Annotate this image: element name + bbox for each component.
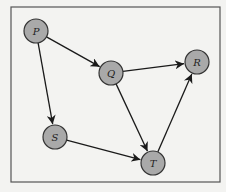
node-label: S [52, 132, 59, 143]
node-label: R [192, 57, 201, 68]
edge-p-to-s [38, 43, 53, 124]
edge-p-to-q [46, 37, 99, 67]
node-t: T [141, 151, 165, 175]
directed-graph: PQRST [0, 0, 226, 192]
edge-s-to-t [67, 140, 141, 160]
edge-q-to-t [116, 84, 147, 151]
node-s: S [43, 125, 67, 149]
node-r: R [185, 50, 209, 74]
node-label: P [32, 26, 40, 37]
node-p: P [24, 19, 48, 43]
node-q: Q [99, 61, 123, 85]
diagram-page: PQRST [0, 0, 226, 192]
edge-q-to-r [123, 64, 184, 72]
node-label: Q [107, 68, 115, 79]
edge-t-to-r [158, 74, 192, 152]
